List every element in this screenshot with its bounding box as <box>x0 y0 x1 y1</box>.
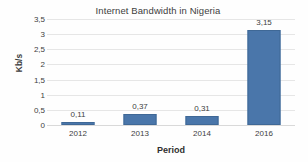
y-axis-tick-label: 0,5 <box>1 105 45 114</box>
x-axis-tick-label: 2016 <box>233 129 295 138</box>
y-axis-tick-label: 3,5 <box>1 15 45 24</box>
bar-value-label: 0,31 <box>194 104 210 113</box>
bar-value-label: 0,11 <box>71 110 86 119</box>
bar-slot: 0,31 <box>171 19 233 125</box>
chart-title: Internet Bandwidth in Nigeria <box>58 5 258 16</box>
y-axis-tick-label: 2,5 <box>1 45 45 54</box>
plot-area: 00,511,522,533,5 0,110,370,313,15 <box>47 19 295 125</box>
x-axis-tick-label: 2014 <box>171 129 233 138</box>
x-axis-tick-label: 2013 <box>109 129 171 138</box>
bar-slot: 0,37 <box>109 19 171 125</box>
y-axis-tick-label: 0 <box>1 121 45 130</box>
bar-slot: 3,15 <box>233 19 295 125</box>
bar-value-label: 3,15 <box>256 18 272 27</box>
y-axis-tick-label: 1 <box>1 90 45 99</box>
bar[interactable] <box>248 30 281 125</box>
y-axis-tick-label: 2 <box>1 60 45 69</box>
gridline <box>47 125 295 126</box>
x-axis-tick-label: 2012 <box>47 129 109 138</box>
bar-value-label: 0,37 <box>132 102 148 111</box>
bar[interactable] <box>62 122 95 125</box>
bar-slot: 0,11 <box>47 19 109 125</box>
y-axis-tick-label: 1,5 <box>1 75 45 84</box>
bar[interactable] <box>124 114 157 125</box>
x-axis-title: Period <box>47 145 295 155</box>
y-axis-tick-label: 3 <box>1 30 45 39</box>
bar[interactable] <box>186 116 219 125</box>
bar-chart-figure: Internet Bandwidth in Nigeria Kb/s 00,51… <box>0 0 308 162</box>
